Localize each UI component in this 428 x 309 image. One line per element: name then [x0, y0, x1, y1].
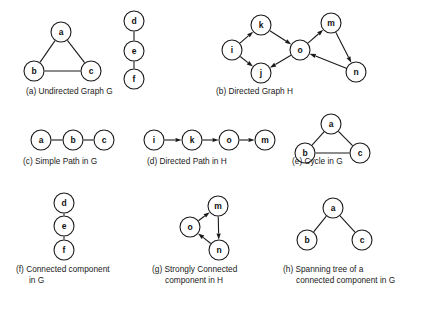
node-label: m [214, 201, 222, 211]
edge-o-m [308, 34, 318, 43]
node-group: ikjomn [222, 13, 366, 83]
node-b: b [63, 130, 83, 150]
node-d: d [124, 11, 144, 31]
node-o: o [290, 40, 310, 60]
node-label: b [70, 135, 75, 145]
node-label: o [187, 222, 192, 232]
edge-n-o [203, 237, 211, 243]
edge-a-b [312, 132, 324, 145]
edge-group [165, 138, 255, 142]
node-label: c [102, 135, 107, 145]
node-label: i [231, 45, 233, 55]
panel-caption-f: (f) Connected componentin G [16, 264, 110, 285]
node-c: c [352, 230, 372, 250]
node-m: m [255, 130, 275, 150]
node-label: e [132, 46, 137, 56]
node-label: b [304, 235, 309, 245]
panel-caption-g: (g) Strongly Connectedcomponent in H [152, 264, 238, 285]
panel-d: ikom(d) Directed Path in H [144, 130, 275, 166]
graph-theory-figure: abcdef(a) Undirected Graph Gikjomn(b) Di… [0, 0, 428, 309]
node-a: a [321, 114, 341, 134]
panel-caption-e: (e) Cycle in G [292, 156, 343, 166]
node-label: d [131, 16, 136, 26]
node-n: n [346, 62, 366, 82]
node-label: m [327, 18, 335, 28]
node-label: k [190, 135, 195, 145]
edge-a-c [67, 40, 84, 62]
node-label: k [259, 20, 264, 30]
node-label: e [62, 221, 67, 231]
node-group: abcdef [24, 11, 144, 89]
panel-caption-c: (c) Simple Path in G [23, 156, 97, 166]
edge-a-c [338, 131, 352, 145]
node-label: o [226, 135, 231, 145]
node-m: m [321, 13, 341, 33]
node-i: i [144, 130, 164, 150]
node-label: f [63, 245, 66, 255]
node-label: d [61, 198, 66, 208]
node-e: e [124, 41, 144, 61]
node-f: f [124, 69, 144, 89]
node-m: m [208, 196, 228, 216]
arrowhead-n-o [310, 54, 317, 58]
node-label: j [259, 68, 262, 78]
node-o: o [219, 130, 239, 150]
panel-h: abc(h) Spanning tree of aconnected compo… [283, 198, 395, 285]
panel-caption-h: (h) Spanning tree of aconnected componen… [283, 264, 395, 285]
panel-f: def(f) Connected componentin G [16, 193, 110, 285]
node-i: i [222, 40, 242, 60]
edge-group [312, 131, 353, 153]
edge-a-b [40, 41, 55, 63]
panel-e: abc(e) Cycle in G [292, 114, 370, 166]
node-label: a [39, 135, 44, 145]
node-label: c [89, 66, 94, 76]
node-e: e [54, 216, 74, 236]
edge-a-b [314, 216, 327, 232]
node-o: o [180, 217, 200, 237]
node-group: abc [31, 130, 114, 150]
node-f: f [54, 240, 74, 260]
node-c: c [81, 61, 101, 81]
figure-canvas: abcdef(a) Undirected Graph Gikjomn(b) Di… [0, 0, 428, 309]
node-k: k [251, 15, 271, 35]
edge-o-j [275, 55, 291, 64]
edge-n-o [316, 56, 347, 68]
node-label: n [216, 245, 221, 255]
node-a: a [323, 198, 343, 218]
node-group: def [54, 193, 74, 260]
node-label: m [261, 135, 269, 145]
edge-k-o [270, 31, 286, 41]
arrowhead-o-m [249, 138, 255, 142]
node-label: f [133, 74, 136, 84]
node-c: c [350, 143, 370, 163]
node-c: c [94, 130, 114, 150]
node-group: mon [180, 196, 229, 260]
node-j: j [251, 63, 271, 83]
panel-caption-a: (a) Undirected Graph G [26, 86, 113, 96]
node-label: b [31, 66, 36, 76]
node-label: i [153, 135, 155, 145]
arrowhead-o-j [270, 63, 276, 68]
node-b: b [24, 61, 44, 81]
node-label: a [59, 27, 64, 37]
node-label: n [353, 67, 358, 77]
panel-b: ikjomn(b) Directed Graph H [216, 13, 366, 96]
node-n: n [209, 240, 229, 260]
node-a: a [51, 22, 71, 42]
node-label: a [331, 203, 336, 213]
node-b: b [297, 230, 317, 250]
panel-caption-b: (b) Directed Graph H [216, 86, 293, 96]
edge-group [198, 212, 221, 243]
edge-m-n [336, 32, 349, 57]
node-label: a [329, 119, 334, 129]
node-label: o [297, 45, 302, 55]
node-a: a [31, 130, 51, 150]
arrowhead-i-k [176, 138, 182, 142]
arrowhead-m-n [347, 56, 352, 62]
arrowhead-k-o [213, 138, 219, 142]
edge-i-j [240, 57, 248, 63]
node-group: abc [297, 198, 372, 250]
panel-c: abc(c) Simple Path in G [23, 130, 114, 166]
arrowhead-k-o [285, 39, 291, 44]
panel-caption-d: (d) Directed Path in H [147, 156, 227, 166]
